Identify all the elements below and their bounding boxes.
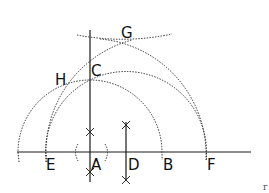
label-A: A <box>91 156 102 174</box>
geometric-construction-diagram: G C H E A D B F r <box>0 0 269 193</box>
label-H: H <box>55 71 66 89</box>
label-G: G <box>121 24 133 42</box>
arc-center-B-through-H-G <box>46 40 132 162</box>
label-B: B <box>163 156 173 174</box>
corner-mark: r <box>263 182 268 192</box>
arc-center-A-through-G-F <box>100 39 206 160</box>
label-C: C <box>91 62 101 80</box>
label-F: F <box>207 156 216 174</box>
label-E: E <box>46 156 55 174</box>
label-D: D <box>128 156 140 174</box>
